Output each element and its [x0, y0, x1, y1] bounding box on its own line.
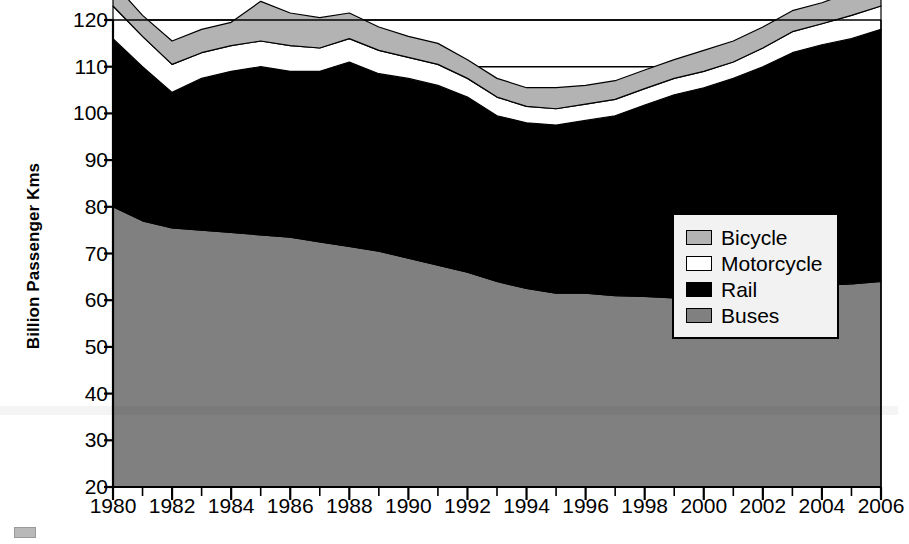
legend-label: Buses — [721, 305, 779, 326]
legend-label: Bicycle — [721, 227, 788, 248]
legend-item: Rail — [686, 276, 823, 302]
legend-item: Buses — [686, 302, 823, 328]
legend-label: Rail — [721, 279, 757, 300]
legend-swatch-buses — [686, 308, 712, 323]
legend-swatch-rail — [686, 282, 712, 297]
legend-item: Bicycle — [686, 224, 823, 250]
legend-label: Motorcycle — [721, 253, 823, 274]
legend-item: Motorcycle — [686, 250, 823, 276]
chart-legend: BicycleMotorcycleRailBuses — [672, 213, 839, 339]
legend-swatch-motorcycle — [686, 256, 712, 271]
x-tick-label: 2006 — [846, 495, 909, 516]
x-axis-tick-labels: 1980198219841986198819901992199419961998… — [0, 495, 898, 535]
legend-swatch-bicycle — [686, 230, 712, 245]
corner-scan-mark — [14, 527, 36, 538]
